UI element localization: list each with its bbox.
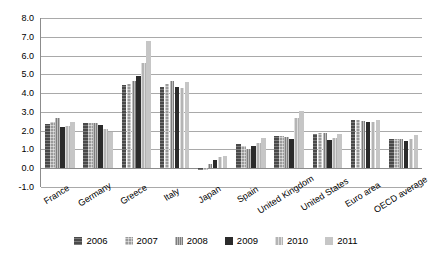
bar (70, 122, 75, 168)
bar (279, 136, 284, 168)
bar (261, 138, 266, 168)
bar (218, 157, 223, 168)
bar (122, 85, 127, 169)
bar-group (45, 18, 75, 187)
bar (213, 160, 218, 168)
bar (356, 120, 361, 168)
bar-group (122, 18, 152, 187)
bar (132, 81, 137, 168)
bar (376, 120, 381, 168)
bar (414, 135, 419, 168)
bar (361, 121, 366, 168)
bar (256, 143, 261, 168)
bar (251, 146, 256, 169)
bar (404, 141, 409, 168)
bar (127, 84, 132, 169)
legend-item-2007[interactable]: 2007 (125, 236, 158, 246)
legend-item-2010[interactable]: 2010 (275, 236, 308, 246)
y-tick-label: 2.0 (21, 126, 34, 135)
legend-label: 2009 (237, 236, 258, 246)
y-tick-label: 7.0 (21, 32, 34, 41)
legend-label: 2008 (187, 236, 208, 246)
bar (50, 122, 55, 168)
bar (409, 139, 414, 168)
legend-item-2006[interactable]: 2006 (74, 236, 107, 246)
legend-item-2009[interactable]: 2009 (225, 236, 258, 246)
y-tick-label: 1.0 (21, 145, 34, 154)
y-tick-label: 5.0 (21, 70, 34, 79)
bar (108, 132, 113, 169)
bar (175, 87, 180, 169)
bar (98, 125, 103, 168)
bar (246, 149, 251, 168)
bar (103, 129, 108, 168)
bar (284, 137, 289, 168)
legend-label: 2007 (137, 236, 158, 246)
chart-legend: 200620072008200920102011 (0, 232, 432, 250)
bar-group (351, 18, 381, 187)
bar (313, 134, 318, 169)
legend-swatch-icon (125, 237, 133, 245)
y-tick-label: 6.0 (21, 51, 34, 60)
bar (337, 134, 342, 168)
legend-swatch-icon (175, 237, 183, 245)
plot-area (40, 18, 422, 187)
bar (371, 122, 376, 168)
legend-label: 2011 (337, 236, 357, 246)
bar (332, 138, 337, 168)
bar (45, 124, 50, 168)
bar (366, 122, 371, 168)
bar-group (236, 18, 266, 187)
bar-group (160, 18, 190, 187)
legend-swatch-icon (325, 237, 333, 245)
y-axis-labels: 8.07.06.05.04.03.02.01.00.0-1.0 (0, 18, 38, 187)
bar (274, 136, 279, 168)
bar-group (274, 18, 304, 187)
bar (389, 139, 394, 168)
bar (165, 84, 170, 169)
bar (299, 111, 304, 168)
bar (160, 87, 165, 169)
bar (203, 168, 208, 170)
bar (198, 168, 203, 170)
bar (241, 146, 246, 169)
bar (208, 164, 213, 168)
legend-label: 2010 (287, 236, 308, 246)
bar (323, 133, 328, 169)
legend-swatch-icon (225, 237, 233, 245)
bar (60, 127, 65, 168)
bar-chart: 8.07.06.05.04.03.02.01.00.0-1.0 FranceGe… (0, 0, 432, 262)
legend-swatch-icon (74, 237, 82, 245)
bar (185, 82, 190, 168)
bar (65, 126, 70, 168)
bar (88, 123, 93, 168)
bar (146, 41, 151, 168)
bar (236, 144, 241, 168)
bar-group (389, 18, 419, 187)
legend-item-2008[interactable]: 2008 (175, 236, 208, 246)
bar (180, 88, 185, 168)
bar (170, 81, 175, 168)
bar (318, 133, 323, 169)
bar (223, 156, 228, 168)
y-tick-label: 3.0 (21, 107, 34, 116)
legend-swatch-icon (275, 237, 283, 245)
y-tick-label: 4.0 (21, 89, 34, 98)
bar (83, 123, 88, 168)
y-tick-label: -1.0 (18, 183, 34, 192)
y-tick-label: 8.0 (21, 14, 34, 23)
bar-group (313, 18, 343, 187)
bar (294, 118, 299, 169)
bar (93, 123, 98, 168)
bar-groups (41, 18, 422, 187)
bar (289, 139, 294, 168)
legend-item-2011[interactable]: 2011 (325, 236, 357, 246)
bar (394, 139, 399, 168)
bar (327, 140, 332, 168)
bar (55, 118, 60, 168)
bar (351, 120, 356, 168)
bar (136, 76, 141, 168)
legend-label: 2006 (86, 236, 107, 246)
bar-group (198, 18, 228, 187)
bar (399, 139, 404, 168)
